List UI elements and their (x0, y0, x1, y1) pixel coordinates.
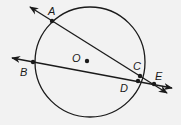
point-d (136, 79, 140, 83)
circle-o (35, 7, 145, 117)
circle-secant-diagram: A B O C D E (0, 0, 181, 125)
point-a (50, 19, 54, 23)
point-b (31, 60, 35, 64)
point-c (138, 74, 142, 78)
label-e: E (155, 70, 163, 82)
label-o: O (72, 52, 81, 64)
point-o (85, 59, 89, 63)
point-e (152, 82, 156, 86)
label-a: A (47, 5, 55, 17)
label-d: D (120, 82, 128, 94)
label-c: C (133, 60, 141, 72)
label-b: B (20, 66, 27, 78)
